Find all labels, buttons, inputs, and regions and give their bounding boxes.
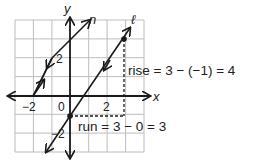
line-n-label: n	[89, 13, 96, 26]
y-axis-label: y	[64, 2, 71, 15]
line-l	[70, 28, 130, 116]
tick-x-2: 2	[103, 101, 110, 113]
tick-y-neg2: −2	[51, 128, 65, 140]
rise-annotation: rise = 3 − (−1) = 4	[128, 64, 235, 78]
origin-label: 0	[58, 101, 65, 113]
x-axis-label: x	[153, 90, 160, 103]
tick-x-neg2: −2	[22, 101, 36, 113]
tick-y-2: 2	[56, 53, 63, 65]
point-0-neg1	[67, 113, 73, 119]
line-l-label: ℓ	[131, 13, 135, 26]
point-3-3	[121, 36, 127, 42]
run-annotation: run = 3 − 0 = 3	[78, 120, 166, 134]
